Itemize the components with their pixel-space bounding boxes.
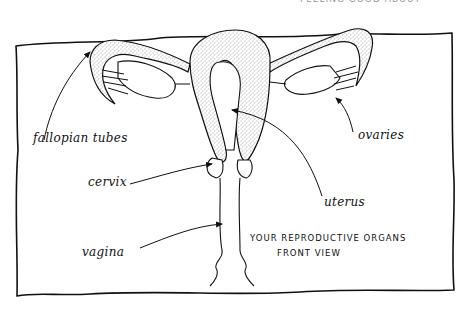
reproductive-organs-diagram: FEELING GOOD ABOUT OURSELVES: [0, 0, 468, 320]
cervix-leader: [130, 164, 212, 184]
cervix-shape: [207, 158, 252, 178]
label-ovaries: ovaries: [358, 128, 404, 142]
label-vagina: vagina: [82, 245, 124, 259]
vagina-leader: [140, 224, 222, 248]
diagram-title: YOUR REPRODUCTIVE ORGANS: [250, 233, 406, 243]
fallopian-tubes-leader: [44, 52, 90, 140]
diagram-drawing: [0, 0, 468, 320]
diagram-subtitle: FRONT VIEW: [277, 248, 341, 258]
right-ovary: [284, 66, 340, 95]
label-cervix: cervix: [88, 175, 127, 189]
ovaries-leader: [336, 98, 353, 132]
vaginal-canal: [210, 178, 254, 286]
label-fallopian-tubes: fallopian tubes: [33, 131, 128, 145]
label-uterus: uterus: [324, 195, 365, 209]
